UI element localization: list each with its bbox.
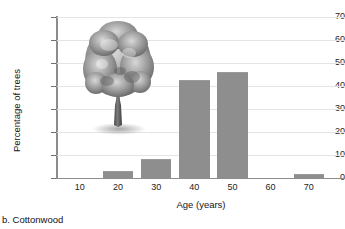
x-tick-label: 40 bbox=[174, 182, 214, 192]
x-tick-label: 20 bbox=[98, 182, 138, 192]
x-tick-label: 60 bbox=[251, 182, 291, 192]
figure-caption: b. Cottonwood bbox=[2, 214, 63, 225]
bar bbox=[179, 80, 210, 178]
x-tick-label: 50 bbox=[212, 182, 252, 192]
bar bbox=[103, 171, 134, 178]
bar bbox=[141, 159, 172, 178]
bar bbox=[217, 72, 248, 178]
gridline bbox=[57, 178, 345, 179]
bar bbox=[294, 174, 325, 178]
deciduous-tree-icon bbox=[74, 19, 162, 137]
chart-figure: Percentage of trees 010203040506070 bbox=[0, 0, 345, 229]
x-tick-label: 30 bbox=[136, 182, 176, 192]
x-tick-label: 70 bbox=[289, 182, 329, 192]
y-axis-title: Percentage of trees bbox=[0, 46, 13, 156]
x-tick-label: 10 bbox=[60, 182, 100, 192]
y-axis-title-text: Percentage of trees bbox=[11, 69, 22, 152]
x-axis-title: Age (years) bbox=[57, 199, 345, 210]
